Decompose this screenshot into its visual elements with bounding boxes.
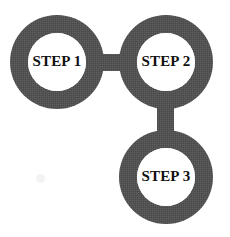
step-flow-diagram: STEP 1 STEP 2 STEP 3 <box>0 0 230 237</box>
node-step-3[interactable]: STEP 3 <box>0 0 230 237</box>
step-3-label: STEP 3 <box>141 168 190 184</box>
diagram-canvas: STEP 1 STEP 2 STEP 3 <box>0 0 230 237</box>
scan-speck-artifact <box>36 174 45 183</box>
step-3-ring <box>0 0 230 237</box>
